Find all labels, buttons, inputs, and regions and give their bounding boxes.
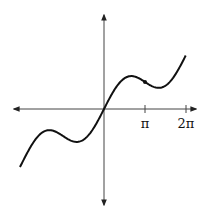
function-plot: π 2π	[0, 0, 207, 216]
tick-label-2pi: 2π	[178, 116, 195, 131]
function-curve	[20, 56, 186, 168]
tick-label-pi: π	[141, 116, 150, 131]
marked-point	[143, 80, 147, 84]
